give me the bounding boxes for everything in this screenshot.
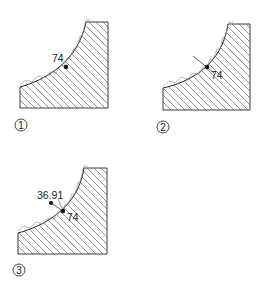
hatch-line [50, 24, 136, 110]
figure-2: 74 2 [43, 22, 265, 133]
hatch-line [92, 24, 178, 110]
hatch-line [71, 24, 157, 110]
hatch-line [108, 168, 194, 254]
hatch-line [0, 22, 84, 108]
hatch-line [0, 22, 70, 108]
hatch-line [253, 24, 265, 110]
dimension-label: 74 [211, 69, 223, 81]
hatch-line [150, 168, 236, 254]
hatch-line [0, 22, 7, 108]
secondary-dimension-label: 36.91 [37, 189, 63, 201]
hatch-line [87, 168, 173, 254]
hatch-line [99, 24, 185, 110]
hatch-line [89, 22, 175, 108]
hatch-line [0, 168, 19, 254]
hatch-line [0, 168, 12, 254]
step-number: 3 [16, 265, 22, 276]
step-number: 2 [160, 122, 166, 133]
hatch-line [239, 24, 265, 110]
hatch-line [101, 168, 187, 254]
hatch-line [157, 168, 243, 254]
hatch-pattern [0, 168, 243, 254]
hatch-line [176, 24, 262, 110]
hatch-line [0, 168, 26, 254]
hatch-line [47, 22, 133, 108]
hatch-line [61, 22, 147, 108]
hatch-line [43, 24, 129, 110]
hatch-line [0, 168, 47, 254]
diagram-canvas: 74 1 74 2 36.91 74 3 [0, 0, 265, 284]
hatch-line [113, 24, 199, 110]
hatch-line [57, 24, 143, 110]
figure-3: 36.91 74 3 [0, 166, 243, 276]
hatch-line [68, 22, 154, 108]
hatch-line [5, 22, 91, 108]
measurement-point [205, 65, 209, 69]
hatch-line [103, 22, 189, 108]
hatch-line [143, 168, 229, 254]
hatch-line [0, 22, 35, 108]
hatch-line [0, 22, 49, 108]
hatch-line [96, 22, 182, 108]
measurement-point [61, 209, 65, 213]
hatch-line [33, 22, 119, 108]
measurement-point [64, 65, 68, 69]
hatch-pattern [43, 24, 265, 110]
hatch-line [0, 22, 21, 108]
hatch-line [0, 22, 56, 108]
hatch-line [0, 168, 5, 254]
hatch-line [0, 22, 28, 108]
hatch-line [73, 168, 159, 254]
hatch-line [0, 168, 33, 254]
hatch-line [122, 168, 208, 254]
hatch-line [115, 168, 201, 254]
hatch-line [85, 24, 171, 110]
hatch-line [106, 24, 192, 110]
hatch-line [0, 22, 14, 108]
hatch-line [45, 168, 131, 254]
hatch-line [78, 24, 164, 110]
hatch-line [82, 22, 168, 108]
hatch-line [66, 168, 152, 254]
hatch-line [169, 24, 255, 110]
hatch-line [0, 22, 63, 108]
hatch-line [129, 168, 215, 254]
hatch-line [138, 22, 224, 108]
hatch-line [12, 22, 98, 108]
hatch-line [117, 22, 203, 108]
hatch-line [145, 22, 231, 108]
step-number: 1 [18, 120, 24, 131]
hatch-line [40, 22, 126, 108]
hatch-line [10, 168, 96, 254]
hatch-line [124, 22, 210, 108]
hatch-line [155, 24, 241, 110]
dimension-label: 74 [52, 52, 64, 64]
offset-point [49, 201, 53, 205]
hatch-line [159, 22, 245, 108]
hatch-line [136, 168, 222, 254]
hatch-line [190, 24, 265, 110]
hatch-line [75, 22, 161, 108]
hatch-line [232, 24, 265, 110]
hatch-line [0, 168, 61, 254]
hatch-line [152, 22, 238, 108]
dimension-label: 74 [67, 211, 79, 223]
hatch-line [80, 168, 166, 254]
hatch-line [127, 24, 213, 110]
hatch-line [26, 22, 112, 108]
hatch-line [260, 24, 265, 110]
hatch-line [204, 24, 265, 110]
figure-1: 74 1 [0, 20, 245, 131]
hatch-line [110, 22, 196, 108]
hatch-line [141, 24, 227, 110]
hatch-line [148, 24, 234, 110]
hatch-line [64, 24, 150, 110]
